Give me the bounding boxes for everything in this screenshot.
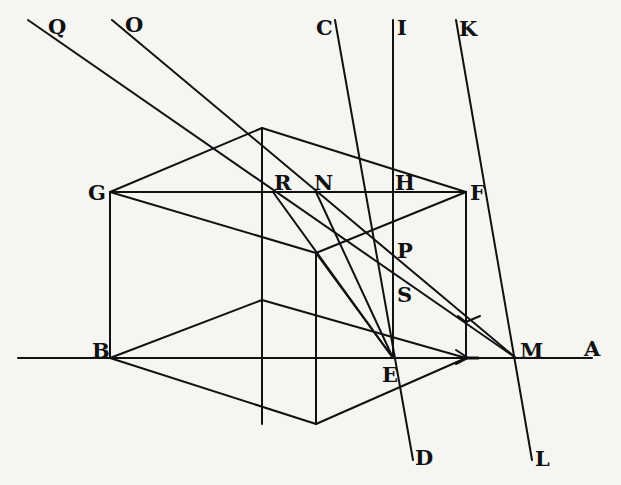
line-G-midfront [110,192,316,253]
label-R: R [274,172,291,193]
line-B-backbottom [110,300,262,358]
label-B: B [92,340,110,361]
label-F: F [470,182,485,203]
perspective-diagram: Q O C I K G R N H F P S B E M A D L [0,0,621,485]
diagram-lines [0,0,621,485]
label-S: S [397,284,412,305]
label-M: M [520,340,543,361]
label-G: G [88,182,106,203]
line-K-L [456,20,532,460]
line-backbottom-arrow [262,300,466,358]
line-G-topback [110,128,262,192]
label-D: D [415,447,433,468]
line-N-E [316,192,393,358]
label-H: H [395,172,415,193]
label-A: A [584,338,600,359]
line-midfront-E [316,253,393,358]
label-I: I [397,17,407,38]
label-E: E [382,364,398,385]
label-C: C [316,17,333,38]
label-Q: Q [48,16,66,37]
line-B-bottomfront [110,358,316,424]
label-K: K [459,18,477,39]
line-midfront-F [316,192,466,253]
label-N: N [314,172,333,193]
label-O: O [125,14,143,35]
label-L: L [535,448,550,469]
label-P: P [397,240,413,261]
